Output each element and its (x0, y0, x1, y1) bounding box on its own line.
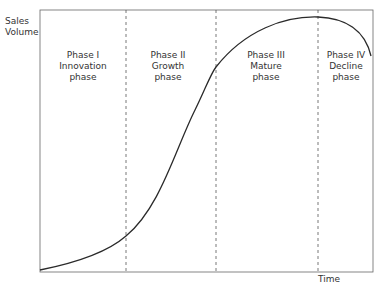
phase-4-suffix: phase (306, 72, 383, 83)
phase-4-title: Phase IV (306, 50, 383, 61)
phase-label-4: Phase IV Decline phase (306, 50, 383, 83)
life-cycle-chart (0, 0, 383, 289)
phase-2-suffix: phase (128, 72, 208, 83)
phase-4-name: Decline (306, 61, 383, 72)
phase-label-3: Phase III Mature phase (226, 50, 306, 83)
phase-label-2: Phase II Growth phase (128, 50, 208, 83)
phase-3-name: Mature (226, 61, 306, 72)
phase-1-title: Phase I (43, 50, 123, 61)
phase-3-title: Phase III (226, 50, 306, 61)
phase-1-name: Innovation (43, 61, 123, 72)
phase-1-suffix: phase (43, 72, 123, 83)
phase-2-name: Growth (128, 61, 208, 72)
phase-3-suffix: phase (226, 72, 306, 83)
phase-label-1: Phase I Innovation phase (43, 50, 123, 83)
phase-2-title: Phase II (128, 50, 208, 61)
x-axis-label: Time (318, 274, 340, 284)
